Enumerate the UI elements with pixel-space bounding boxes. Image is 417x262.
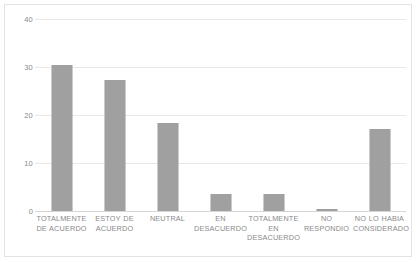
bar-slot [141,19,194,211]
x-axis-labels: TOTALMENTEDE ACUERDOESTOY DEACUERDONEUTR… [35,214,406,260]
x-axis-label-line: ACUERDO [88,224,141,234]
x-axis-label: NO RESPONDIO [300,214,353,233]
y-tick-label-10: 10 [7,159,33,168]
x-axis-label: ENDESACUERDO [194,214,247,233]
bar[interactable] [316,209,337,211]
x-axis-label-line: TOTALMENTE [35,214,88,224]
x-axis-label-line: DESACUERDO [247,233,300,243]
plot-area [35,19,406,211]
x-axis-label: NEUTRAL [141,214,194,224]
x-axis-label: TOTALMENTEENDESACUERDO [247,214,300,243]
bar-slot [247,19,300,211]
y-tick-label-30: 30 [7,63,33,72]
x-axis-label-line: CONSIDERADO [353,224,406,234]
x-axis-label-line: ESTOY DE [88,214,141,224]
y-axis: 010203040 [5,19,33,211]
bar-series [35,19,406,211]
y-tick-label-20: 20 [7,111,33,120]
x-axis-label-line: NEUTRAL [141,214,194,224]
x-axis-label-line: DE ACUERDO [35,224,88,234]
x-axis-label: NO LO HABIACONSIDERADO [353,214,406,233]
x-axis-label-line: EN [194,214,247,224]
bar-slot [35,19,88,211]
bar[interactable] [157,123,178,211]
x-axis-label-line: TOTALMENTE [247,214,300,224]
bar[interactable] [263,194,284,211]
y-tick-label-0: 0 [7,207,33,216]
bar[interactable] [104,80,125,211]
bar[interactable] [51,65,72,211]
bar-slot [88,19,141,211]
chart-container: 010203040 TOTALMENTEDE ACUERDOESTOY DEAC… [4,4,412,257]
x-axis-label-line: NO LO HABIA [353,214,406,224]
bar-slot [194,19,247,211]
x-axis-label-line: DESACUERDO [194,224,247,234]
x-axis-label: TOTALMENTEDE ACUERDO [35,214,88,233]
bar[interactable] [369,129,390,211]
bar-slot [353,19,406,211]
bar-slot [300,19,353,211]
gridline-0 [35,211,406,212]
bar[interactable] [210,194,231,211]
x-axis-label-line: NO RESPONDIO [300,214,353,233]
x-axis-label: ESTOY DEACUERDO [88,214,141,233]
x-axis-label-line: EN [247,224,300,234]
y-tick-label-40: 40 [7,15,33,24]
